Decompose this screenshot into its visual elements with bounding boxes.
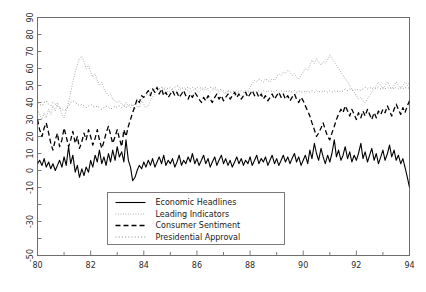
y-axis-tick-label: 70 [26,46,35,56]
y-axis-tick-label: 20 [26,131,35,141]
y-axis-tick-label: 10 [26,148,35,158]
x-axis-tick-label: 82 [86,261,96,270]
legend-label-2: Consumer Sentiment [156,221,241,230]
series-group [38,55,410,188]
series-line-0 [38,140,410,188]
x-axis-tick-label: 84 [139,261,149,270]
x-axis-tick-label: 86 [192,261,202,270]
legend-label-3: Presidential Approval [156,233,241,242]
line-chart-canvas: 9080706050403020100-10-30-50808284868890… [0,0,426,292]
x-axis-tick-label: 92 [351,261,361,270]
x-axis-tick-label: 94 [404,261,414,270]
chart-figure: 9080706050403020100-10-30-50808284868890… [0,0,426,292]
y-axis-tick-label: -10 [26,181,35,194]
y-axis-tick-label: -30 [26,215,35,228]
chart-legend[interactable]: Economic HeadlinesLeading IndicatorsCons… [108,193,285,245]
series-line-3 [38,86,410,112]
legend-label-0: Economic Headlines [156,198,237,207]
y-axis-tick-label: 30 [26,114,35,124]
y-axis-tick-label: 80 [26,29,35,39]
y-axis-tick-label: 60 [26,63,35,73]
legend-label-1: Leading Indicators [156,210,230,219]
y-axis-tick-label: 0 [26,168,35,173]
y-axis-tick-label: 90 [26,12,35,22]
series-line-2 [38,87,410,150]
x-axis-tick-label: 90 [298,261,308,270]
y-axis-tick-label: 50 [26,80,35,90]
y-axis-tick-label: 40 [26,97,35,107]
series-line-1 [38,55,410,120]
x-axis-tick-label: 80 [32,261,42,270]
x-axis-tick-label: 88 [245,261,255,270]
